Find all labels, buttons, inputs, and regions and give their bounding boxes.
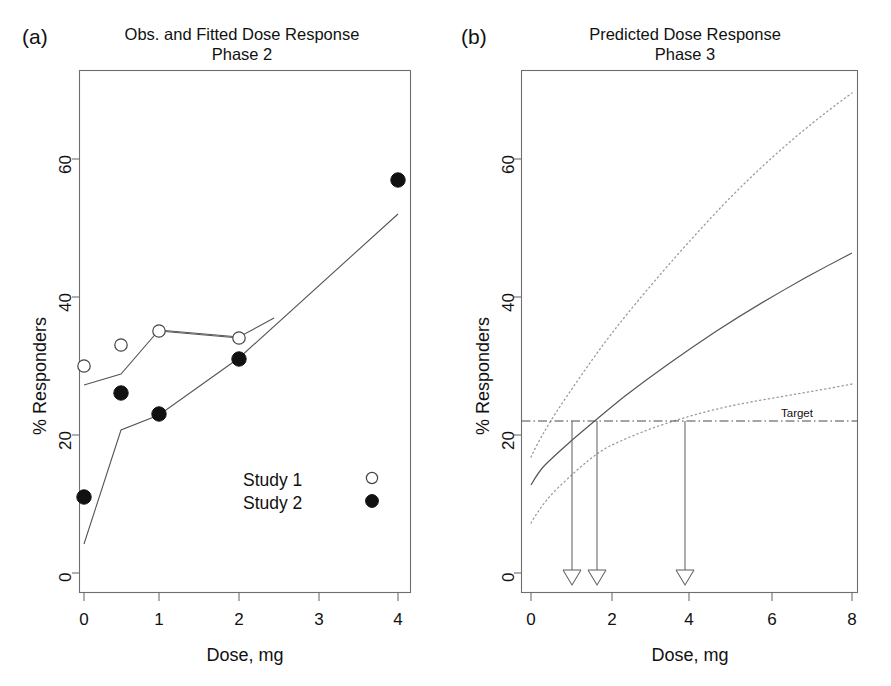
panel-b-upper-band [531, 93, 852, 457]
panel-b-arrow-mean-dose [588, 421, 606, 585]
panel-a-study-1-connector [159, 331, 239, 338]
legend-marker-filled-circle [366, 495, 379, 508]
data-point-study1-dose1 [153, 325, 165, 337]
legend-marker-open-circle [366, 472, 377, 483]
panel-a-plot [0, 0, 445, 686]
data-point-study2-dose0 [77, 490, 91, 504]
panel-b-predicted-curve [531, 253, 852, 485]
panel-b-lower-band [531, 384, 852, 523]
data-point-study1-dose0_5 [115, 339, 127, 351]
panel-b-arrow-upper-dose [676, 421, 694, 585]
panel-a-x-tickmarks [84, 593, 398, 602]
data-point-study1-dose0 [78, 360, 90, 372]
panel-b: (b) Predicted Dose Response Phase 3 % Re… [445, 0, 891, 686]
panel-b-plot [445, 0, 891, 686]
panel-a-fitted-line-study-2 [84, 214, 398, 544]
panel-a: (a) Obs. and Fitted Dose Response Phase … [0, 0, 445, 686]
data-point-study2-dose4 [391, 173, 405, 187]
panel-a-plot-frame [80, 71, 411, 593]
data-point-study2-dose1 [152, 407, 166, 421]
data-point-study2-dose2 [232, 352, 246, 366]
panel-b-y-tickmarks [514, 159, 522, 573]
panel-a-points-study-1 [78, 325, 245, 372]
data-point-study2-dose0_5 [114, 386, 128, 400]
figure-dose-response: (a) Obs. and Fitted Dose Response Phase … [0, 0, 891, 686]
data-point-study1-dose2 [233, 332, 245, 344]
panel-b-x-tickmarks [531, 593, 852, 602]
